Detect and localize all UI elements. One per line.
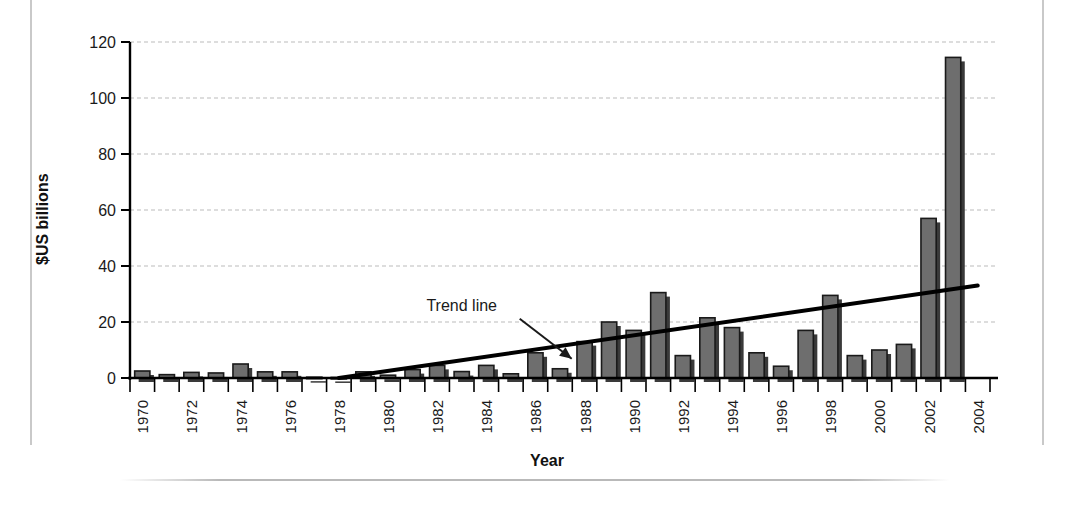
bar — [675, 356, 690, 378]
bar — [602, 322, 617, 378]
bar — [233, 364, 248, 378]
x-tick-label: 1988 — [577, 400, 594, 433]
x-tick-label: 1990 — [626, 400, 643, 433]
bar-shadow — [311, 381, 326, 383]
x-tick-label: 1994 — [724, 400, 741, 433]
y-tick-labels-group: 020406080100120 — [89, 34, 116, 387]
bar — [774, 366, 789, 378]
x-tick-label: 1976 — [282, 400, 299, 433]
bar-shadow — [384, 379, 399, 382]
x-tick-label: 2004 — [970, 400, 987, 433]
bar — [872, 350, 887, 378]
bar — [896, 344, 911, 378]
bar — [946, 57, 961, 378]
bar — [749, 353, 764, 378]
chart-plot-area: 020406080100120 197019721974197619781980… — [0, 0, 1074, 509]
x-tick-labels-group: 1970197219741976197819801982198419861988… — [134, 400, 986, 433]
bar — [847, 356, 862, 378]
x-tick-label: 1970 — [134, 400, 151, 433]
x-tick-label: 1972 — [183, 400, 200, 433]
x-tick-label: 1982 — [429, 400, 446, 433]
bar — [921, 218, 936, 378]
y-tick-label: 60 — [98, 202, 116, 219]
y-tick-label: 20 — [98, 314, 116, 331]
y-tick-label: 100 — [89, 90, 116, 107]
bar — [724, 328, 739, 378]
bar — [430, 365, 445, 378]
axes-group — [121, 42, 998, 392]
bar — [798, 330, 813, 378]
y-tick-label: 80 — [98, 146, 116, 163]
x-tick-label: 2002 — [921, 400, 938, 433]
bar — [552, 369, 567, 378]
x-tick-label: 1978 — [331, 400, 348, 433]
x-tick-label: 1974 — [233, 400, 250, 433]
y-tick-label: 120 — [89, 34, 116, 51]
x-tick-label: 1980 — [380, 400, 397, 433]
y-tick-label: 0 — [107, 370, 116, 387]
bar-shadow — [335, 381, 350, 383]
annotations-group: Trend line — [426, 297, 571, 359]
trend-line-annotation-label: Trend line — [426, 297, 497, 314]
annotation-arrow-head — [559, 347, 572, 358]
x-tick-label: 1998 — [822, 400, 839, 433]
bar — [528, 353, 543, 378]
x-tick-label: 2000 — [871, 400, 888, 433]
y-tick-label: 40 — [98, 258, 116, 275]
gridlines-group — [130, 42, 998, 322]
bar — [479, 365, 494, 378]
bars-group — [135, 57, 965, 383]
bar — [405, 370, 420, 378]
x-tick-label: 1986 — [527, 400, 544, 433]
x-tick-label: 1996 — [773, 400, 790, 433]
chart-figure: $US billions Year 020406080100120 197019… — [0, 0, 1074, 509]
bar — [651, 293, 666, 378]
x-tick-label: 1984 — [478, 400, 495, 433]
x-tick-label: 1992 — [675, 400, 692, 433]
bar — [577, 342, 592, 378]
